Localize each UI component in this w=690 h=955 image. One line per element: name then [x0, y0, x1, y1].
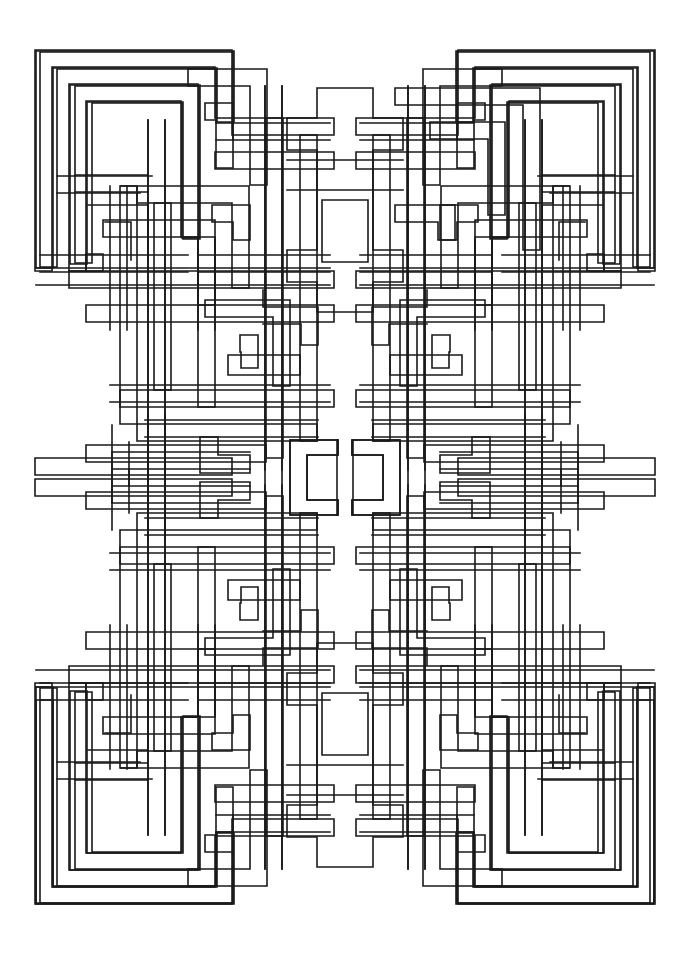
paper-background [0, 0, 690, 955]
celtic-knot-illustration [0, 0, 690, 955]
artboard [0, 0, 690, 955]
